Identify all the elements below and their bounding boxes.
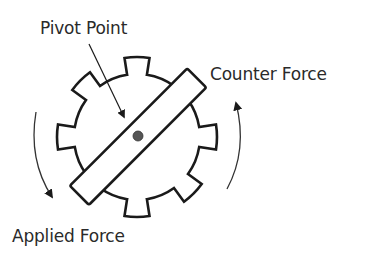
lever-gear-diagram <box>0 0 373 255</box>
pivot-point-label: Pivot Point <box>40 18 127 38</box>
pivot-point-dot <box>133 131 143 141</box>
counter-force-label: Counter Force <box>210 64 327 84</box>
applied-force-label: Applied Force <box>12 226 125 246</box>
counter-force-arrow <box>227 103 240 189</box>
applied-force-arrow <box>34 112 52 197</box>
